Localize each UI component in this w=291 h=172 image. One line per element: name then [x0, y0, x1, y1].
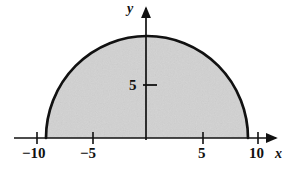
x-tick-label-5: 5 [198, 146, 206, 161]
figure-container: −10 −5 5 10 5 y x [0, 0, 291, 172]
x-tick-label-minus-10: −10 [22, 146, 46, 161]
shaded-semicircle-region [46, 36, 248, 138]
y-tick-label-5: 5 [129, 78, 137, 93]
x-axis-label: x [275, 147, 282, 161]
x-tick-label-minus-5: −5 [80, 146, 96, 161]
region-stipple-texture [46, 36, 248, 138]
y-axis-label: y [127, 2, 133, 16]
x-tick-label-10: 10 [249, 146, 264, 161]
